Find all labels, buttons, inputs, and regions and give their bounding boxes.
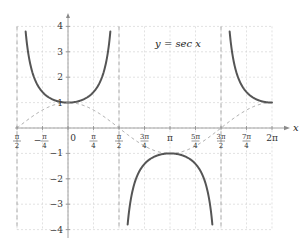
y-tick-label: 2: [57, 72, 63, 82]
x-axis-label: x: [293, 122, 299, 133]
y-axis-arrow-icon: [66, 13, 70, 18]
x-tick-denominator: 2: [117, 142, 121, 150]
x-tick-label: 0: [70, 133, 76, 143]
x-tick-sign: −: [34, 135, 42, 145]
y-tick-label: −4: [50, 225, 64, 235]
chart-title: y = sec x: [154, 38, 201, 49]
x-tick-denominator: 2: [219, 142, 223, 150]
x-tick-numerator: 5π: [191, 133, 200, 141]
x-axis-arrow-icon: [284, 126, 290, 130]
x-tick-denominator: 4: [91, 142, 96, 150]
y-tick-label: 1: [57, 98, 63, 108]
y-tick-label: −1: [50, 148, 63, 158]
x-tick-label: π: [167, 133, 173, 143]
x-tick-denominator: 4: [193, 142, 198, 150]
y-tick-label: −3: [50, 199, 64, 209]
x-tick-denominator: 4: [244, 142, 249, 150]
x-tick-denominator: 2: [15, 142, 19, 150]
y-tick-label: −2: [50, 174, 63, 184]
x-tick-numerator: π: [117, 133, 122, 141]
x-tick-numerator: 3π: [216, 133, 225, 141]
x-tick-numerator: π: [15, 133, 20, 141]
y-tick-label: 3: [57, 47, 63, 57]
x-tick-numerator: π: [91, 133, 96, 141]
sec-chart: x π2−π40π4π23π4π5π43π27π42π−4−3−2−11234 …: [0, 0, 301, 242]
x-tick-denominator: 4: [142, 142, 147, 150]
x-tick-label: 2π: [266, 133, 278, 143]
x-tick-denominator: 4: [42, 142, 47, 150]
x-tick-numerator: 7π: [242, 133, 251, 141]
x-tick-numerator: π: [42, 133, 47, 141]
y-tick-label: 4: [57, 21, 63, 31]
sec-curve-branch: [230, 31, 272, 102]
x-tick-numerator: 3π: [140, 133, 149, 141]
